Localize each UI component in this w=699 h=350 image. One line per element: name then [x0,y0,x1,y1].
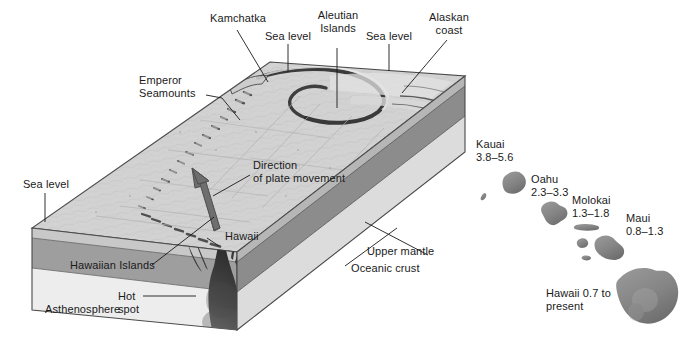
island-kahoolawe [582,256,591,261]
label-hawaiian-islands: Hawaiian Islands [70,259,180,272]
label-emperor-seamounts: Emperor Seamounts [139,74,219,99]
island-oahu [541,201,567,225]
label-maui-name: Maui [626,212,680,225]
label-maui-age: 0.8–1.3 [626,225,680,238]
island-maui [595,236,625,260]
island-niihau [481,193,487,200]
label-alaskan-coast: Alaskan coast [413,11,485,36]
figure-root: Kamchatka Sea level Aleutian Islands Sea… [0,0,699,350]
label-kauai-name: Kauai [476,138,536,151]
label-upper-mantle: Upper mantle [367,245,449,258]
island-lanai [577,238,588,248]
label-hawaii-island-age: present [546,300,632,313]
label-oahu-name: Oahu [531,173,591,186]
label-sea-level-left: Sea level [12,178,80,191]
label-hawaii-block: Hawaii [225,230,273,243]
label-oceanic-crust: Oceanic crust [351,262,437,275]
label-molokai-name: Molokai [572,194,636,207]
label-hot-spot: Hot spot [118,290,148,315]
island-molokai [574,224,599,231]
island-kauai [502,172,525,194]
label-direction-plate-movement: Direction of plate movement [253,159,383,184]
label-kamchatka: Kamchatka [190,12,286,25]
label-kauai-age: 3.8–5.6 [476,151,536,164]
label-hawaii-island-name: Hawaii 0.7 to [546,287,632,300]
